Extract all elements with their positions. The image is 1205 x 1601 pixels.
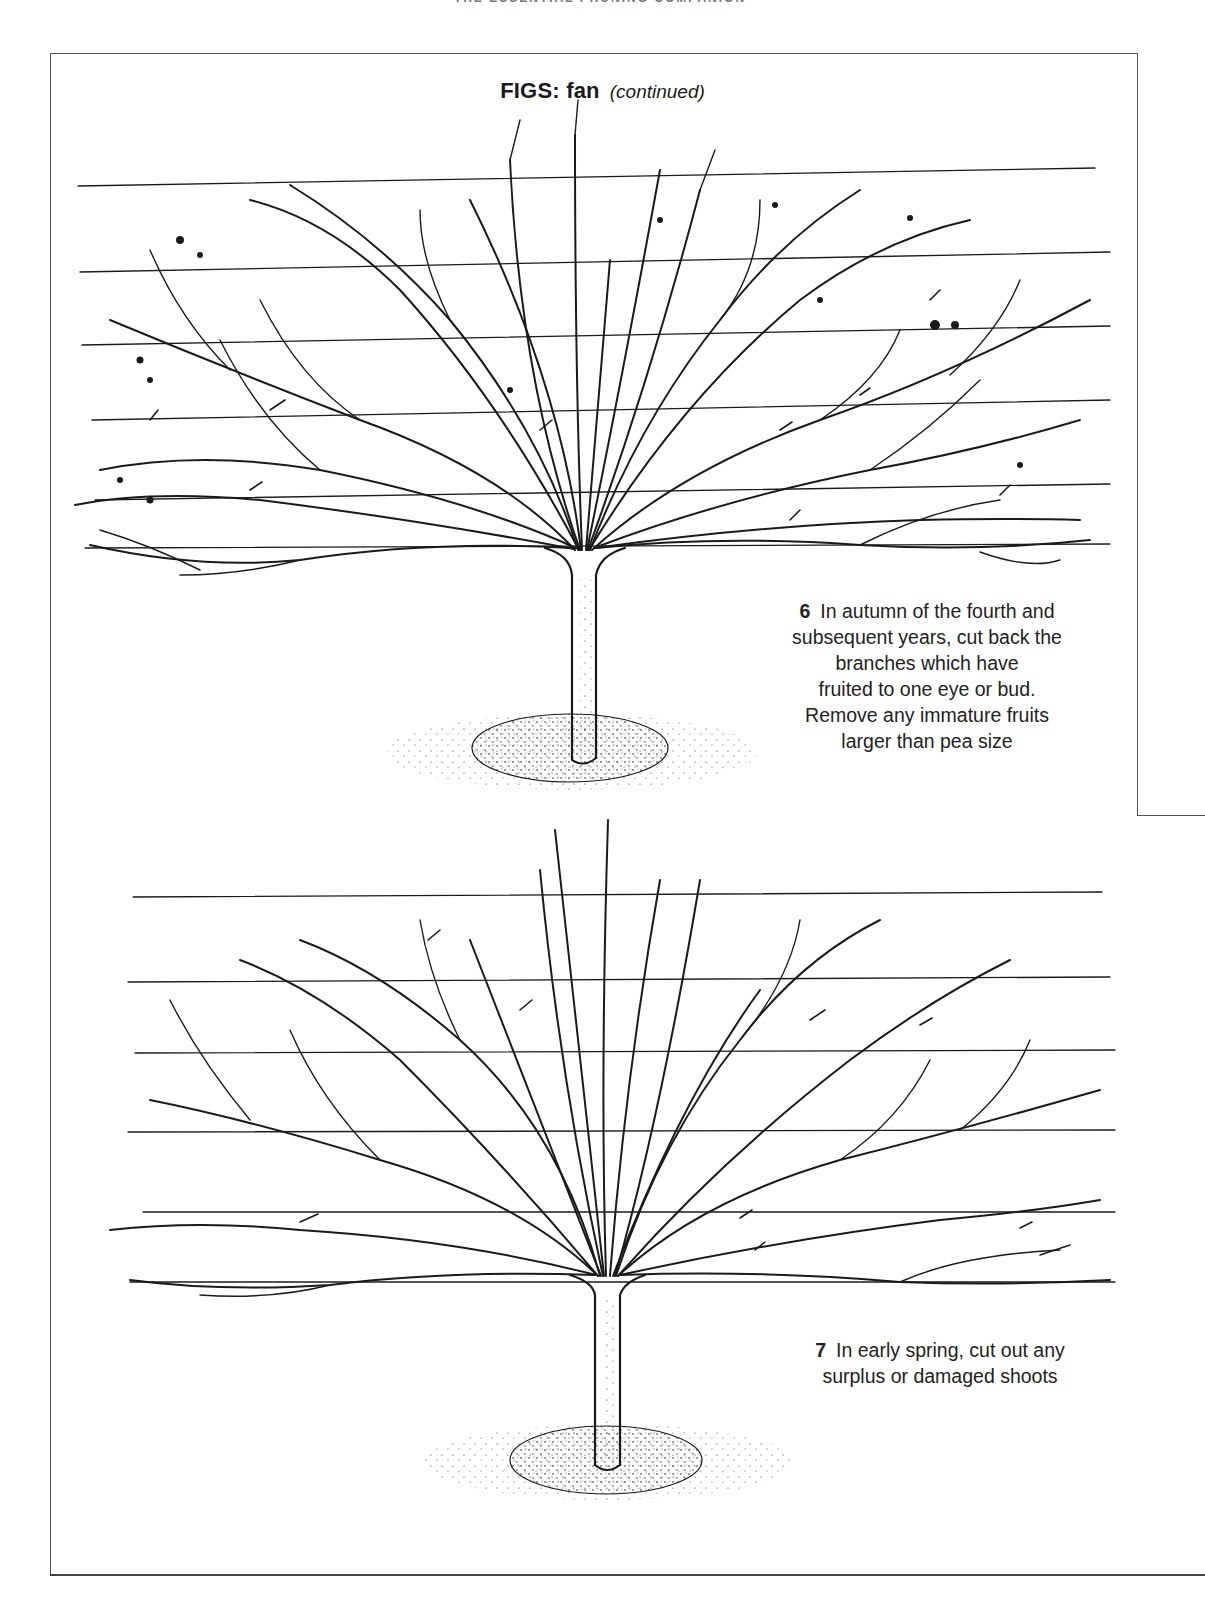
- step-6-line-4: fruited to one eye or bud.: [757, 676, 1097, 702]
- step-6-line-6: larger than pea size: [757, 728, 1097, 754]
- step-7-line-1: 7In early spring, cut out any: [770, 1337, 1110, 1363]
- step-7-caption: 7In early spring, cut out any surplus or…: [770, 1337, 1110, 1389]
- step-7-number: 7: [815, 1339, 826, 1361]
- step-6-line-3: branches which have: [757, 650, 1097, 676]
- tree-step-7: [110, 820, 1115, 1500]
- step-6-line-2: subsequent years, cut back the: [757, 624, 1097, 650]
- step-7-line-2: surplus or damaged shoots: [770, 1363, 1110, 1389]
- step-6-line-1: 6In autumn of the fourth and: [757, 598, 1097, 624]
- step-6-caption: 6In autumn of the fourth and subsequent …: [757, 598, 1097, 754]
- training-wires-step-7: [128, 892, 1115, 1282]
- step-6-line-5: Remove any immature fruits: [757, 702, 1097, 728]
- training-wires-step-6: [78, 168, 1110, 548]
- step-6-number: 6: [799, 600, 810, 622]
